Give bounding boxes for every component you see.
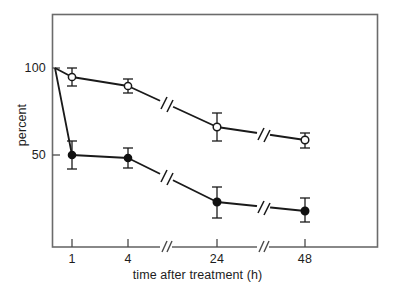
series-filled-circle [55, 68, 310, 222]
x-tick-label-24: 24 [210, 252, 224, 266]
x-tick-label-48: 48 [298, 252, 312, 266]
x-axis-title: time after treatment (h) [0, 268, 395, 282]
markers-open [68, 73, 308, 143]
error-bars-filled [67, 141, 310, 222]
series-open-circle [55, 68, 310, 148]
y-axis-title: percent [15, 95, 29, 155]
line-chart-plot [0, 0, 395, 299]
figure-container: 100 50 1 4 24 48 time after treatment (h… [0, 0, 395, 299]
markers-filled [68, 151, 308, 214]
y-tick-label-100: 100 [8, 61, 46, 75]
x-tick-label-4: 4 [124, 252, 131, 266]
x-tick-label-1: 1 [68, 252, 75, 266]
y-tick-marks [53, 68, 61, 155]
x-tick-marks [72, 239, 305, 247]
